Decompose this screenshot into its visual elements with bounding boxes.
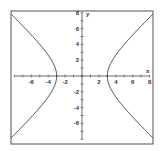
hyperbola-plot: -6-4-224688642-2-4-6xy: [0, 0, 162, 151]
y-tick-label: -6: [74, 120, 80, 126]
y-tick-label: -4: [74, 105, 80, 111]
y-tick-label: -2: [74, 89, 80, 95]
x-tick-label: -4: [46, 79, 52, 85]
x-tick-label: -6: [29, 79, 35, 85]
x-tick-label: -2: [62, 79, 68, 85]
